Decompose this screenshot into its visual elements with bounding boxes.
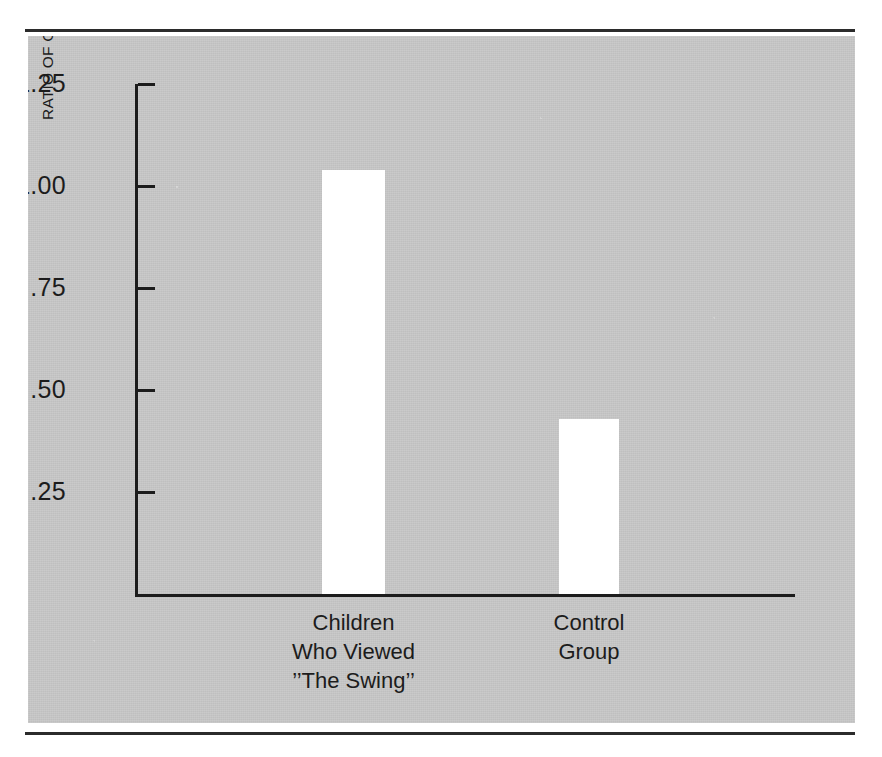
y-tick-label-2: .75 [30,275,66,300]
x-category-label-0-line-0: Children [224,608,484,637]
y-tick-label-3: 1.00 [28,173,66,198]
bottom-rule [25,732,855,735]
y-tick-4 [138,83,155,86]
top-rule [25,29,855,32]
x-category-label-1-line-1: Group [459,637,719,666]
x-category-label-0-line-1: Who Viewed [224,637,484,666]
y-tick-3 [138,185,155,188]
y-tick-label-4: 1.25 [28,71,66,96]
x-category-label-0-line-2: ’’The Swing’’ [224,666,484,695]
y-tick-2 [138,287,155,290]
chart-plate: RATIO OF COOPERATION TO COMPETITIVENESS … [28,36,855,723]
y-tick-label-0: .25 [30,479,66,504]
x-category-label-0: ChildrenWho Viewed’’The Swing’’ [224,608,484,695]
y-tick-1 [138,389,155,392]
figure-container: RATIO OF COOPERATION TO COMPETITIVENESS … [0,0,882,757]
y-tick-label-1: .50 [30,377,66,402]
x-category-label-1: ControlGroup [459,608,719,666]
y-tick-0 [138,491,155,494]
x-category-label-1-line-0: Control [459,608,719,637]
